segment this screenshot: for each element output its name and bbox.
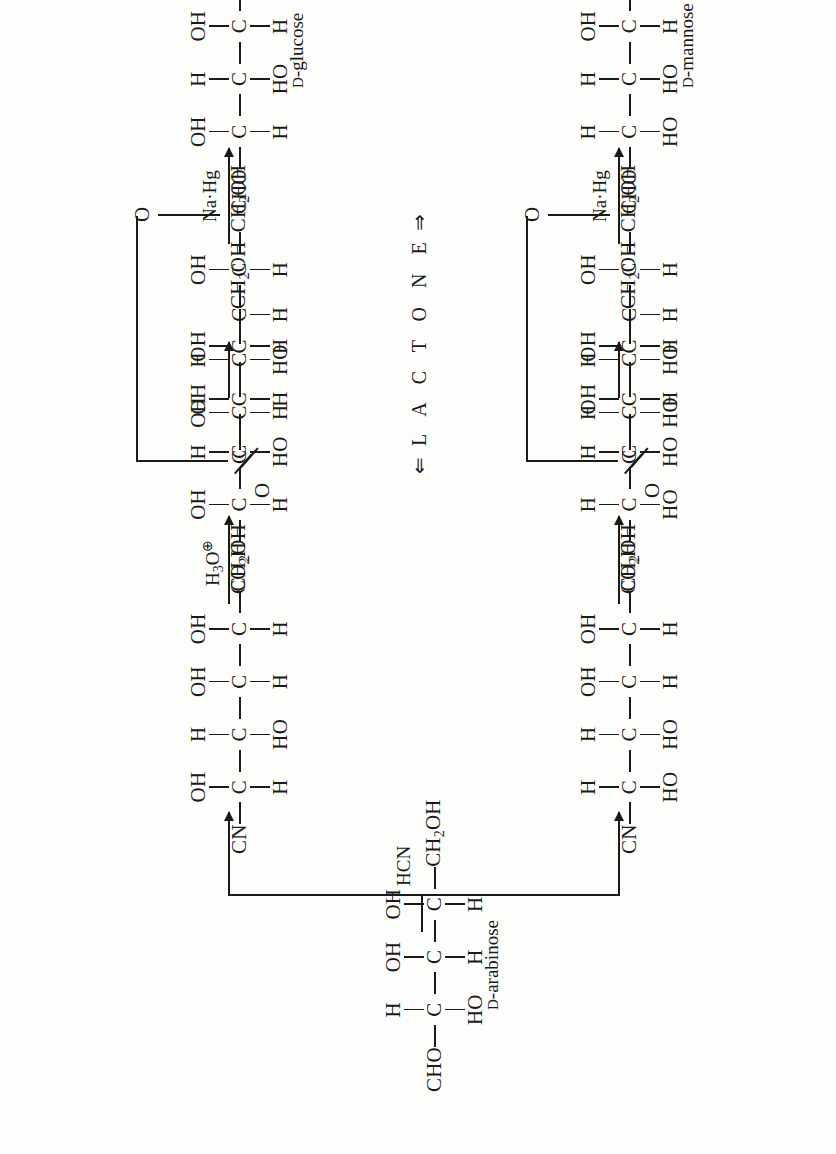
atom-label-carbon: C [619, 353, 640, 367]
atom-label-carbon: C [229, 262, 250, 276]
substituent-up: H [383, 1002, 404, 1017]
stereocenter-1: HCHO [573, 772, 686, 803]
bond-vertical [250, 78, 270, 80]
substituent-down: H [270, 674, 291, 689]
stereocenter-1: HCHO [378, 994, 491, 1025]
bond-vertical [640, 734, 660, 736]
atom-label-head: CN [619, 824, 640, 854]
substituent-up: OH [188, 254, 209, 285]
bond-horizontal [629, 520, 631, 542]
bond-vertical [250, 734, 270, 736]
atom-label-head: CO2H [228, 542, 252, 594]
bond-horizontal [629, 467, 631, 489]
bond-vertical [250, 131, 270, 133]
lactone-ring-bond-horizontal [136, 216, 138, 462]
caption-d-arabinose: D-arabinose [481, 920, 503, 1010]
hcn-label: HCN [393, 846, 415, 886]
lactone-ring-bond-vertical-right [548, 214, 610, 216]
bond-vertical [599, 786, 619, 788]
substituent-down: H [660, 674, 681, 689]
bond-horizontal [434, 972, 436, 994]
substituent-down: H [270, 621, 291, 636]
terminal-group-head: CHO [573, 169, 686, 214]
atom-label-carbon: C [424, 1003, 445, 1017]
bond-vertical [209, 786, 229, 788]
bond-horizontal [629, 0, 631, 11]
substituent-up: H [578, 352, 599, 367]
substituent-down: H [660, 621, 681, 636]
atom-label-head: CO2H [618, 542, 642, 594]
bond-horizontal [239, 520, 241, 542]
stereocenter-1: OHCH [183, 772, 296, 803]
substituent-up: H [578, 71, 599, 86]
hcn-arrow-riser [228, 894, 618, 896]
substituent-up: H [578, 124, 599, 139]
bond-horizontal [629, 232, 631, 254]
stereocenter-1: HCHO [573, 116, 686, 147]
bond-vertical [640, 131, 660, 133]
substituent-up: OH [383, 942, 404, 973]
substituent-up: OH [578, 666, 599, 697]
stereocenter-3: OHCH [183, 666, 296, 697]
stereocenter-3: CH [183, 307, 296, 322]
carbonyl-oxygen: O [252, 483, 273, 498]
atom-label-carbon: C [229, 780, 250, 794]
lactone-ring-bond-vertical-left [136, 460, 228, 462]
atom-label-carbon: C [619, 674, 640, 688]
bond-vertical [250, 681, 270, 683]
atom-label-carbon: C [229, 19, 250, 33]
atom-label-carbon: C [619, 308, 640, 322]
stereocenter-1: OHCH [183, 397, 296, 428]
bond-horizontal [629, 375, 631, 397]
substituent-down: H [660, 307, 681, 322]
page-root: CHOHCHOOHCHOHCHCH2OHD-arabinoseHCNCNOHCH… [0, 0, 836, 1154]
bond-vertical [599, 628, 619, 630]
bond-vertical [640, 681, 660, 683]
bond-vertical [445, 903, 465, 905]
stereocenter-2: HCHO [183, 64, 296, 95]
lactone-right-arrow-icon: ⇒ [408, 207, 430, 231]
bond-vertical [250, 25, 270, 27]
bond-vertical [599, 269, 619, 271]
stereocenter-1: HCHO [573, 489, 686, 520]
stereocenter-4: OHCH [183, 254, 296, 285]
bond-horizontal [239, 232, 241, 254]
bond-horizontal [434, 867, 436, 889]
stereocenter-3: CH [573, 307, 686, 322]
substituent-up: OH [188, 613, 209, 644]
atom-label-carbon: C [229, 674, 250, 688]
atom-label-head: CHO [229, 169, 250, 214]
bond-vertical [640, 412, 660, 414]
bond-vertical [599, 25, 619, 27]
atom-label-carbon: C [229, 308, 250, 322]
molecule-d-arabinose: CHOHCHOOHCHOHCHCH2OH [377, 799, 493, 1092]
substituent-down: H [270, 307, 291, 322]
bond-vertical [250, 786, 270, 788]
substituent-down: HO [660, 344, 681, 375]
stereocenter-2: HCHO [573, 719, 686, 750]
small-cap-d: D [290, 77, 306, 88]
substituent-down: H [270, 497, 291, 512]
substituent-down: H [660, 262, 681, 277]
stereocenter-1: OHCH [183, 116, 296, 147]
bond-vertical [209, 734, 229, 736]
substituent-down: H [270, 262, 291, 277]
lactone-left-arrow-icon: ⇐ [408, 450, 430, 474]
bond-vertical [599, 131, 619, 133]
substituent-up: OH [578, 613, 599, 644]
bond-horizontal [629, 591, 631, 613]
bond-horizontal [239, 428, 241, 450]
bond-vertical [599, 504, 619, 506]
terminal-group-head: CHO [378, 1047, 491, 1092]
bond-vertical [209, 412, 229, 414]
stereocenter-2: OHCH [378, 942, 491, 973]
caption-d-glucose: D-glucose [286, 13, 308, 88]
substituent-down: HO [660, 397, 681, 428]
atom-label-head: CHO [619, 169, 640, 214]
bond-horizontal [629, 750, 631, 772]
stereocenter-2: HCHO [183, 344, 296, 375]
bond-vertical [640, 25, 660, 27]
bond-horizontal [239, 591, 241, 613]
lactone-ring-bond-horizontal [526, 216, 528, 462]
substituent-down: H [270, 405, 291, 420]
